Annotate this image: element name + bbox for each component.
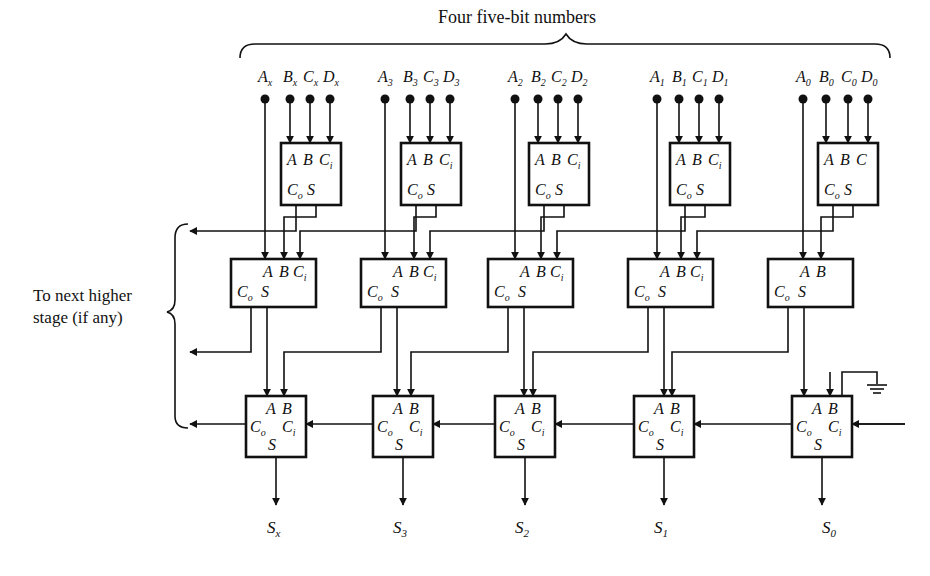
wire-mid-carry-out bbox=[190, 307, 251, 352]
adder-label-B: B bbox=[531, 400, 541, 417]
input-label-B1: B1 bbox=[672, 68, 687, 88]
adder-label-A: A bbox=[392, 400, 403, 417]
adder-label-S: S bbox=[696, 181, 704, 198]
adder-label-B: B bbox=[840, 151, 850, 168]
side-label-line2: stage (if any) bbox=[33, 308, 123, 327]
adder-label-A: A bbox=[823, 151, 834, 168]
input-label-Dx: Dx bbox=[322, 68, 340, 88]
input-label-A1: A1 bbox=[649, 68, 665, 88]
column-x: AxBxCxDxABCiCoSABCiCoSABCoCiSSx bbox=[190, 68, 341, 539]
wire-top-carry-out bbox=[300, 205, 416, 259]
adder-label-B: B bbox=[670, 400, 680, 417]
adder-label-S: S bbox=[427, 181, 435, 198]
adder-label-A: A bbox=[659, 263, 670, 280]
output-label-S3: S3 bbox=[393, 518, 408, 539]
adder-label-Ci: C bbox=[856, 151, 867, 168]
adder-label-B: B bbox=[423, 151, 433, 168]
adder-label-B: B bbox=[692, 151, 702, 168]
wire-mid-carry-out bbox=[284, 307, 381, 396]
adder-label-B: B bbox=[303, 151, 313, 168]
adder-label-S: S bbox=[814, 436, 822, 453]
adder-label-B: B bbox=[551, 151, 561, 168]
input-label-A0: A0 bbox=[795, 68, 811, 88]
output-label-S1: S1 bbox=[654, 518, 668, 539]
adder-label-A: A bbox=[262, 263, 273, 280]
input-label-C2: C2 bbox=[551, 68, 567, 88]
adder-label-S: S bbox=[268, 436, 276, 453]
wire-top-carry-out bbox=[697, 205, 833, 259]
adder-label-B: B bbox=[536, 263, 546, 280]
adder-label-B: B bbox=[282, 400, 292, 417]
adder-label-A: A bbox=[265, 400, 276, 417]
figure-title: Four five-bit numbers bbox=[438, 7, 596, 27]
adder-label-S: S bbox=[518, 283, 526, 300]
adder-label-S: S bbox=[517, 436, 525, 453]
adder-label-S: S bbox=[307, 181, 315, 198]
side-label-line1: To next higher bbox=[33, 286, 132, 305]
input-label-D1: D1 bbox=[711, 68, 729, 88]
ground-icon bbox=[842, 372, 887, 396]
input-label-A2: A2 bbox=[507, 68, 523, 88]
input-label-C3: C3 bbox=[423, 68, 439, 88]
wire-top-sum bbox=[821, 205, 853, 259]
adder-label-A: A bbox=[392, 263, 403, 280]
adder-label-B: B bbox=[279, 263, 289, 280]
adder-label-S: S bbox=[555, 181, 563, 198]
adder-label-S: S bbox=[658, 283, 666, 300]
input-label-A3: A3 bbox=[377, 68, 393, 88]
adder-label-S: S bbox=[391, 283, 399, 300]
adder-label-A: A bbox=[534, 151, 545, 168]
adder-label-S: S bbox=[395, 436, 403, 453]
output-label-Sx: Sx bbox=[267, 518, 281, 539]
input-label-Ax: Ax bbox=[257, 68, 273, 88]
side-brace bbox=[167, 224, 188, 428]
adder-label-A: A bbox=[286, 151, 297, 168]
input-label-C0: C0 bbox=[841, 68, 857, 88]
input-label-B2: B2 bbox=[531, 68, 546, 88]
output-label-S0: S0 bbox=[822, 518, 837, 539]
adder-label-A: A bbox=[406, 151, 417, 168]
wire-mid-carry-out bbox=[672, 307, 788, 396]
input-label-Cx: Cx bbox=[303, 68, 319, 88]
adder-label-S: S bbox=[656, 436, 664, 453]
input-label-D2: D2 bbox=[570, 68, 588, 88]
input-label-C1: C1 bbox=[692, 68, 708, 88]
adder-label-B: B bbox=[409, 400, 419, 417]
adder-label-A: A bbox=[799, 263, 810, 280]
adder-label-B: B bbox=[409, 263, 419, 280]
input-label-B0: B0 bbox=[819, 68, 834, 88]
adder-label-S: S bbox=[798, 283, 806, 300]
wire-top-sum bbox=[414, 205, 436, 259]
adder-label-S: S bbox=[844, 181, 852, 198]
input-label-D3: D3 bbox=[442, 68, 460, 88]
wire-top-carry-out bbox=[430, 205, 544, 259]
adder-label-B: B bbox=[676, 263, 686, 280]
adder-label-A: A bbox=[675, 151, 686, 168]
adder-diagram: Four five-bit numbers To next higher sta… bbox=[0, 0, 930, 576]
input-label-D0: D0 bbox=[860, 68, 878, 88]
adder-label-A: A bbox=[653, 400, 664, 417]
wire-top-carry-out bbox=[557, 205, 685, 259]
input-label-Bx: Bx bbox=[283, 68, 298, 88]
input-label-B3: B3 bbox=[403, 68, 418, 88]
wire-mid-carry-out bbox=[411, 307, 508, 396]
top-brace bbox=[240, 34, 890, 58]
adder-label-S: S bbox=[261, 283, 269, 300]
adder-label-A: A bbox=[519, 263, 530, 280]
output-label-S2: S2 bbox=[515, 518, 530, 539]
adder-label-A: A bbox=[514, 400, 525, 417]
wire-top-carry-out bbox=[190, 205, 296, 231]
adder-label-B: B bbox=[828, 400, 838, 417]
adder-label-A: A bbox=[811, 400, 822, 417]
wire-mid-carry-out bbox=[533, 307, 648, 396]
adder-label-B: B bbox=[816, 263, 826, 280]
